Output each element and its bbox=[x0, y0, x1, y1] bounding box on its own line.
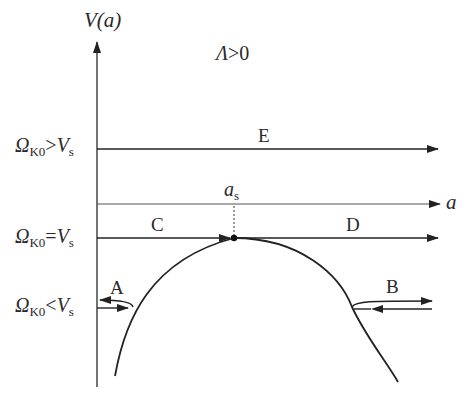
peak-point bbox=[231, 235, 237, 241]
trajectory-label-c: C bbox=[151, 214, 164, 236]
trajectory-label-d: D bbox=[346, 214, 360, 236]
level-equal-label: ΩK0=Vs bbox=[15, 225, 74, 248]
trajectory-a-left-arrow bbox=[100, 300, 133, 307]
trajectory-label-b: B bbox=[386, 276, 399, 298]
peak-label: as bbox=[224, 178, 239, 201]
trajectory-b-right-arrow bbox=[352, 301, 432, 307]
potential-curve bbox=[115, 238, 398, 382]
condition-label: Λ>0 bbox=[216, 42, 249, 65]
x-axis-label: a bbox=[446, 190, 457, 215]
level-below-label: ΩK0<Vs bbox=[15, 294, 74, 317]
trajectory-label-e: E bbox=[258, 125, 270, 147]
level-above-label: ΩK0>Vs bbox=[15, 134, 74, 157]
trajectory-label-a: A bbox=[110, 277, 124, 299]
y-axis-label: V(a) bbox=[84, 8, 121, 33]
